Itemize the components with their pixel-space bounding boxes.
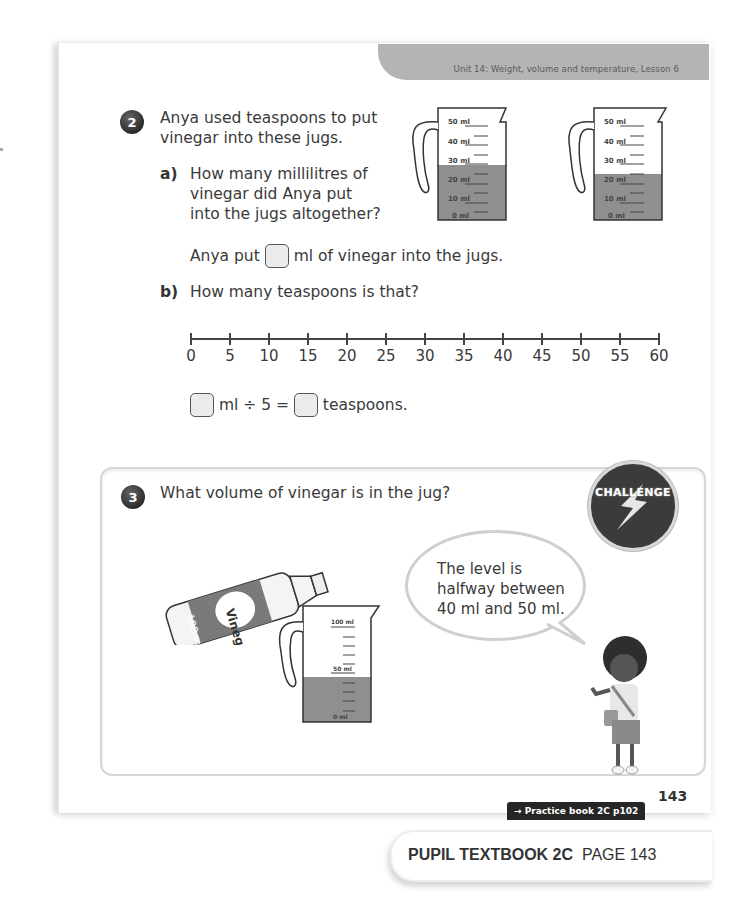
margin-mark bbox=[0, 148, 3, 151]
jug-scale-label: 50 ml bbox=[333, 665, 352, 672]
girl-character-illustration bbox=[590, 628, 660, 778]
answer-box-total-ml[interactable] bbox=[265, 244, 289, 268]
practice-book-link[interactable]: → Practice book 2C p102 bbox=[507, 802, 645, 820]
equation-text: ml ÷ 5 = bbox=[219, 396, 289, 414]
tick bbox=[190, 333, 192, 345]
svg-text:0 ml: 0 ml bbox=[452, 212, 469, 220]
part-a-line: vinegar did Anya put bbox=[190, 184, 381, 204]
tick-label: 20 bbox=[337, 347, 356, 365]
answer-text: Anya put bbox=[190, 247, 260, 265]
jug-scale-label: 0 ml bbox=[333, 713, 348, 720]
tick bbox=[619, 333, 621, 345]
question-3-number: 3 bbox=[121, 485, 145, 509]
challenge-badge: CHALLENGE bbox=[588, 461, 678, 551]
tick-label: 25 bbox=[376, 347, 395, 365]
answer-box-teaspoons[interactable] bbox=[294, 393, 318, 417]
speech-line: 40 ml and 50 ml. bbox=[437, 599, 565, 619]
tick bbox=[229, 333, 231, 345]
svg-text:50 ml: 50 ml bbox=[604, 118, 626, 126]
measuring-jug-3: 100 ml 50 ml 0 ml bbox=[275, 602, 385, 742]
tick-label: 0 bbox=[186, 347, 196, 365]
svg-text:20 ml: 20 ml bbox=[604, 176, 626, 184]
svg-text:20 ml: 20 ml bbox=[448, 176, 470, 184]
part-a-label: a) bbox=[160, 164, 178, 184]
speech-line: The level is bbox=[437, 559, 565, 579]
tick-label: 30 bbox=[415, 347, 434, 365]
speech-bubble-tail bbox=[545, 620, 595, 650]
part-b-label: b) bbox=[160, 282, 178, 302]
part-a-line: into the jugs altogether? bbox=[190, 204, 381, 224]
tick-label: 45 bbox=[532, 347, 551, 365]
tick bbox=[580, 333, 582, 345]
page-number: 143 bbox=[658, 788, 687, 804]
speech-text: The level is halfway between 40 ml and 5… bbox=[437, 559, 565, 619]
answer-text: ml of vinegar into the jugs. bbox=[294, 247, 504, 265]
unit-label: Unit 14: Weight, volume and temperature,… bbox=[454, 64, 679, 74]
number-line: 0 5 10 15 20 25 30 35 40 45 50 55 60 bbox=[190, 330, 660, 370]
tick-label: 50 bbox=[571, 347, 590, 365]
tick-label: 60 bbox=[649, 347, 668, 365]
part-a-question: How many millilitres of vinegar did Anya… bbox=[190, 164, 381, 224]
tick-label: 15 bbox=[298, 347, 317, 365]
prompt-line: Anya used teaspoons to put bbox=[160, 108, 377, 128]
jug-scale-label: 100 ml bbox=[331, 618, 354, 625]
part-b-question: How many teaspoons is that? bbox=[190, 282, 419, 302]
tick-label: 55 bbox=[610, 347, 629, 365]
tick bbox=[502, 333, 504, 345]
tick-label: 40 bbox=[493, 347, 512, 365]
tick bbox=[385, 333, 387, 345]
tick bbox=[541, 333, 543, 345]
measuring-jug-2: 50 ml40 ml30 ml 20 ml10 ml0 ml bbox=[560, 100, 690, 230]
tick bbox=[307, 333, 309, 345]
unit-banner: Unit 14: Weight, volume and temperature,… bbox=[378, 44, 709, 80]
speech-line: halfway between bbox=[437, 579, 565, 599]
book-title: PUPIL TEXTBOOK 2C bbox=[408, 846, 573, 863]
part-b-equation: ml ÷ 5 = teaspoons. bbox=[190, 393, 408, 417]
tick bbox=[424, 333, 426, 345]
part-a-answer-sentence: Anya put ml of vinegar into the jugs. bbox=[190, 244, 503, 268]
challenge-label: CHALLENGE bbox=[591, 486, 675, 499]
svg-text:50 ml: 50 ml bbox=[448, 118, 470, 126]
equation-text: teaspoons. bbox=[323, 396, 408, 414]
tick-label: 10 bbox=[259, 347, 278, 365]
book-caption: PUPIL TEXTBOOK 2C PAGE 143 bbox=[408, 846, 656, 864]
answer-box-ml[interactable] bbox=[190, 393, 214, 417]
tick-label: 35 bbox=[454, 347, 473, 365]
tick bbox=[463, 333, 465, 345]
tick-label: 5 bbox=[225, 347, 235, 365]
svg-text:10 ml: 10 ml bbox=[448, 195, 470, 203]
part-b-marker: b) bbox=[160, 283, 178, 301]
prompt-line: vinegar into these jugs. bbox=[160, 128, 377, 148]
svg-text:0 ml: 0 ml bbox=[608, 212, 625, 220]
part-a-line: How many millilitres of bbox=[190, 164, 381, 184]
part-a-marker: a) bbox=[160, 165, 178, 183]
book-page: PAGE 143 bbox=[582, 846, 656, 863]
tick bbox=[346, 333, 348, 345]
question-3-prompt: What volume of vinegar is in the jug? bbox=[160, 483, 450, 503]
tick bbox=[658, 333, 660, 345]
question-2-number: 2 bbox=[120, 110, 144, 134]
svg-text:10 ml: 10 ml bbox=[604, 195, 626, 203]
tick bbox=[268, 333, 270, 345]
question-2-prompt: Anya used teaspoons to put vinegar into … bbox=[160, 108, 377, 148]
measuring-jug-1: 50 ml40 ml30 ml 20 ml10 ml0 ml bbox=[410, 100, 540, 230]
book-caption-tab: PUPIL TEXTBOOK 2C PAGE 143 bbox=[390, 830, 712, 882]
